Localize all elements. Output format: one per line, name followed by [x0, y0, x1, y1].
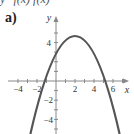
- x-tick-label: 2: [73, 84, 78, 94]
- y-tick-label: −2: [43, 95, 53, 105]
- x-tick-label: 4: [92, 84, 97, 94]
- y-tick-label: −4: [43, 115, 53, 125]
- x-axis-label: x: [124, 84, 130, 95]
- y-axis-label: y: [46, 12, 52, 23]
- x-axis-arrow-icon: [123, 79, 129, 84]
- x-tick-label: 6: [111, 84, 116, 94]
- parabola-chart: −4 −2 2 4 6 x 4 −2 −4 y: [0, 0, 134, 134]
- y-tick-label: 4: [47, 38, 52, 48]
- x-tick-label: −4: [13, 84, 23, 94]
- y-axis-arrow-icon: [54, 16, 59, 22]
